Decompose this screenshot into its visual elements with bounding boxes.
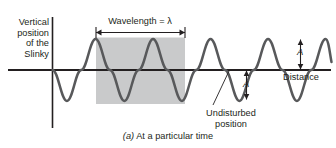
wavelength-measure-arrow [96, 27, 185, 38]
wavelength-label: Wavelength = λ [94, 16, 186, 27]
caption-part-label: (a) [123, 131, 134, 141]
amplitude-label-trough: A [243, 78, 249, 89]
undisturbed-position-label: Undisturbed position [196, 108, 266, 129]
y-axis-label: Vertical position of the Slinky [2, 17, 49, 59]
wave-diagram-figure: Vertical position of the Slinky Waveleng… [0, 0, 336, 148]
x-axis-label: Distance [283, 72, 319, 83]
amplitude-label-crest: A [297, 46, 303, 57]
figure-caption: (a) At a particular time [0, 131, 336, 142]
undisturbed-leader-line [213, 71, 229, 105]
caption-text: At a particular time [134, 131, 213, 141]
